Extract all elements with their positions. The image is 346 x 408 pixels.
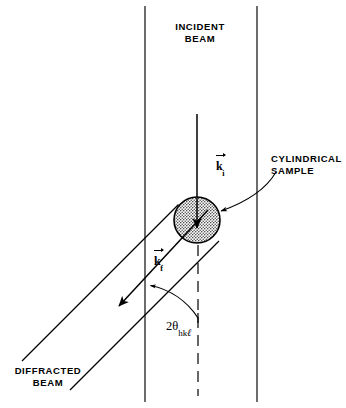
scattered-wavevector-arrow [119,210,208,306]
vector-overbar-arrowhead-i [223,153,226,157]
cylindrical-sample-leader-arrow [221,172,276,211]
diffracted-beam-label: DIFFRACTED BEAM [6,365,90,388]
diffracted-beam-upper-boundary-line [22,205,179,362]
incident-wavevector-label: ki [216,156,225,176]
diffraction-geometry-figure: INCIDENT BEAM CYLINDRICAL SAMPLE DIFFRAC… [0,0,346,408]
vector-overbar-arrowhead-f [161,248,164,252]
cylindrical-sample-label: CYLINDRICAL SAMPLE [271,153,343,176]
angle-subscript-hk: hk [178,328,187,338]
scattered-wavevector-label: kf [154,251,163,271]
incident-beam-label: INCIDENT BEAM [168,21,232,44]
angle-subscript-ell: ℓ [187,327,191,338]
scattered-wavevector-subscript: f [160,264,163,273]
two-theta-angle-label: 2θhkℓ [166,319,192,336]
figure-vector-graphics [0,0,346,408]
